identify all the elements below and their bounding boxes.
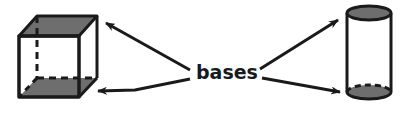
- bases-label: bases: [196, 63, 258, 82]
- arrow-cube-bottom: [98, 79, 190, 91]
- cylinder-shape: [347, 6, 391, 99]
- arrow-cube-top: [106, 23, 190, 70]
- arrows-to-cylinder: [260, 20, 340, 92]
- cube-bottom-base: [19, 78, 97, 97]
- cube-shape: [19, 16, 97, 97]
- arrows-to-cube: [98, 23, 190, 91]
- cube-top-base: [19, 16, 97, 36]
- arrow-cylinder-top: [260, 20, 338, 69]
- cylinder-top-base: [347, 6, 391, 20]
- bases-diagram: bases: [0, 0, 400, 134]
- arrow-cylinder-bottom: [262, 78, 340, 92]
